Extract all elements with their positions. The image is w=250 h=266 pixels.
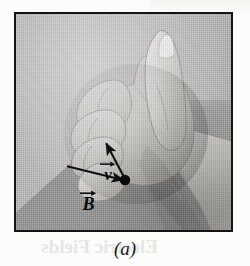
- magnetic-field-vector-label: B: [80, 189, 97, 213]
- figure-photo-frame: v B: [14, 12, 233, 232]
- vector-overlay: [16, 14, 231, 230]
- figure-caption: (a): [0, 238, 250, 260]
- magnetic-field-arrow-accent-icon: [80, 189, 97, 196]
- page-background: Electric Fields: [0, 0, 250, 266]
- velocity-vector-label: v: [100, 160, 116, 183]
- charge-dot: [120, 175, 131, 186]
- velocity-arrow-accent-icon: [100, 160, 116, 167]
